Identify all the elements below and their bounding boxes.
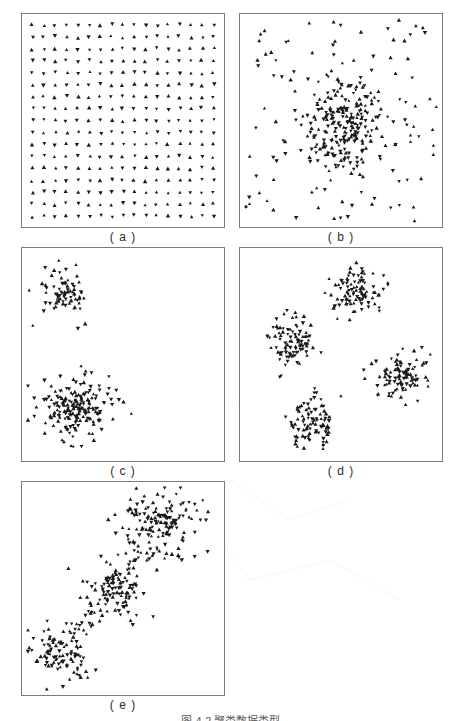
scatter-plot-b: [240, 14, 442, 227]
scatter-panel-e: [21, 481, 225, 696]
scatter-points: [244, 18, 438, 222]
scatter-plot-e: [22, 482, 224, 695]
panel-label-d: ( d ): [239, 464, 443, 478]
panel-label-a: ( a ): [21, 230, 225, 244]
figure-container: ( a ) ( b ) ( c ) ( d ) ( e ) 图 4-2 聚类数据…: [0, 0, 462, 721]
panel-label-b: ( b ): [239, 230, 443, 244]
scatter-points: [26, 259, 133, 448]
scatter-plot-d: [240, 248, 442, 461]
scatter-panel-b: [239, 13, 443, 228]
figure-caption: 图 4-2 聚类数据类型: [0, 712, 462, 721]
scatter-points: [265, 260, 432, 450]
scatter-plot-a: [22, 14, 224, 227]
scatter-panel-d: [239, 247, 443, 462]
scatter-plot-c: [22, 248, 224, 461]
panel-label-c: ( c ): [21, 464, 225, 478]
panel-label-e: ( e ): [21, 698, 225, 712]
scatter-points: [26, 486, 210, 690]
scatter-panel-c: [21, 247, 225, 462]
scatter-points: [30, 22, 217, 219]
scatter-panel-a: [21, 13, 225, 228]
